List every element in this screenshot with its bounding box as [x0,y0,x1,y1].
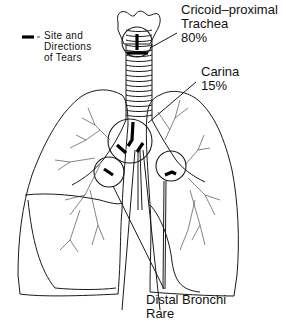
cricoid-callout: Cricoid–proximal Trachea 80% [181,3,278,45]
left-lung-inner [150,205,200,292]
legend-text: Site and Directions of Tears [44,31,91,63]
trachea-ring [126,95,152,97]
cricoid-callout-subtitle: Trachea [181,17,278,31]
right-lower-lobe [28,200,116,290]
cricoid-callout-title: Cricoid–proximal [181,3,278,17]
cricoid-callout-percent: 80% [181,31,278,45]
right-lung-outline [18,90,128,296]
right-main-bronchus [72,120,126,185]
trachea-ring [126,80,152,82]
trachea-ring [126,75,152,77]
airway-tear-diagram: Site and Directions of Tears Cricoid–pro… [0,0,286,325]
right-lung-fissure [25,194,122,204]
trachea-ring [126,105,152,107]
lung-illustration [0,0,286,325]
carina-callout-title: Carina [201,65,239,79]
trachea-ring [126,70,152,72]
trachea-ring [126,85,152,87]
carina-callout-percent: 15% [201,79,239,93]
distal-leader-line-2 [165,181,166,289]
trachea-ring [126,90,152,92]
legend-line-2: Directions [44,42,91,53]
legend-line-3: of Tears [44,53,91,64]
distal-leader-line-left [163,181,164,289]
left-lung-outline [146,91,238,296]
bronchial-tree-right [55,108,110,252]
distal-callout-frequency: Rare [146,307,226,321]
trachea-ring [126,40,152,42]
trachea-ring [126,115,152,117]
trachea-ring [126,100,152,102]
distal-callout: Distal Bronchi Rare [146,293,226,321]
trachea-ring [126,35,152,37]
carina-leader-line [148,82,196,123]
trachea-ring [126,65,152,67]
bronchus-inner [122,150,160,310]
trachea-ring [126,45,152,47]
trachea-ring [126,60,152,62]
carina-callout: Carina 15% [201,65,239,93]
distal-callout-title: Distal Bronchi [146,293,226,307]
